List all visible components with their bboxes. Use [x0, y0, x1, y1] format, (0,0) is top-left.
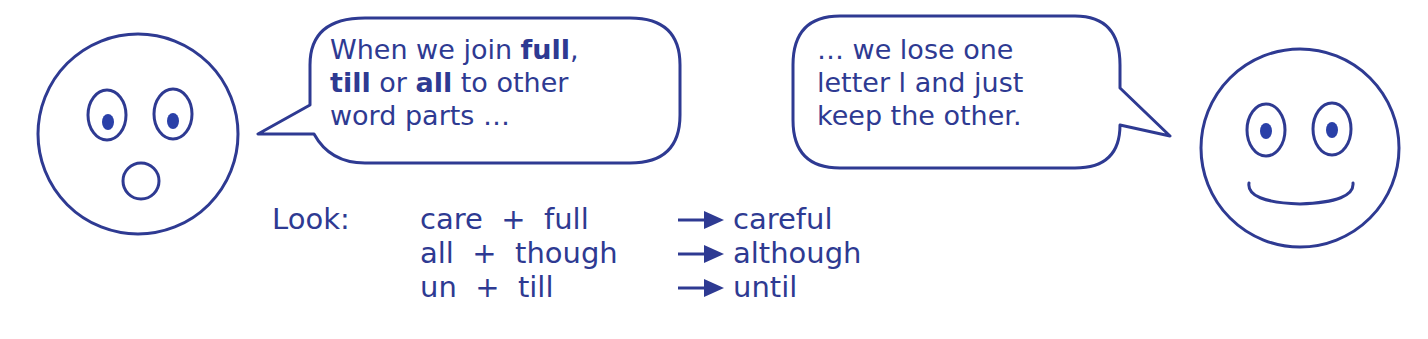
example-parts-2: all + though [420, 236, 618, 270]
example-result-3: until [733, 270, 797, 304]
bubble-left-line-1: When we join full, [330, 33, 579, 66]
illustration [0, 0, 1428, 339]
example-parts-3: un + till [420, 270, 553, 304]
keyword-till: till [330, 67, 371, 98]
bubble-left-line-3: word parts … [330, 99, 579, 132]
text: to other [452, 67, 568, 98]
text: When we join [330, 34, 521, 65]
example-parts-1: care + full [420, 202, 589, 236]
keyword-all: all [415, 67, 452, 98]
bubble-right-text: … we lose one letter l and just keep the… [817, 33, 1023, 132]
arrow-icon [678, 245, 724, 263]
bubble-right-line-2: letter l and just [817, 66, 1023, 99]
examples-label: Look: [272, 202, 350, 236]
bubble-left-text: When we join full, till or all to other … [330, 33, 579, 132]
example-result-1: careful [733, 202, 833, 236]
surprised-face-icon [38, 34, 238, 234]
keyword-full: full [521, 34, 570, 65]
text: , [570, 34, 579, 65]
bubble-left-line-2: till or all to other [330, 66, 579, 99]
text: word parts … [330, 100, 510, 131]
example-result-2: although [733, 236, 862, 270]
bubble-right-line-3: keep the other. [817, 99, 1023, 132]
arrow-icon [678, 211, 724, 229]
arrow-icon [678, 279, 724, 297]
smiling-face-icon [1201, 49, 1399, 247]
bubble-right-line-1: … we lose one [817, 33, 1023, 66]
text: or [371, 67, 416, 98]
